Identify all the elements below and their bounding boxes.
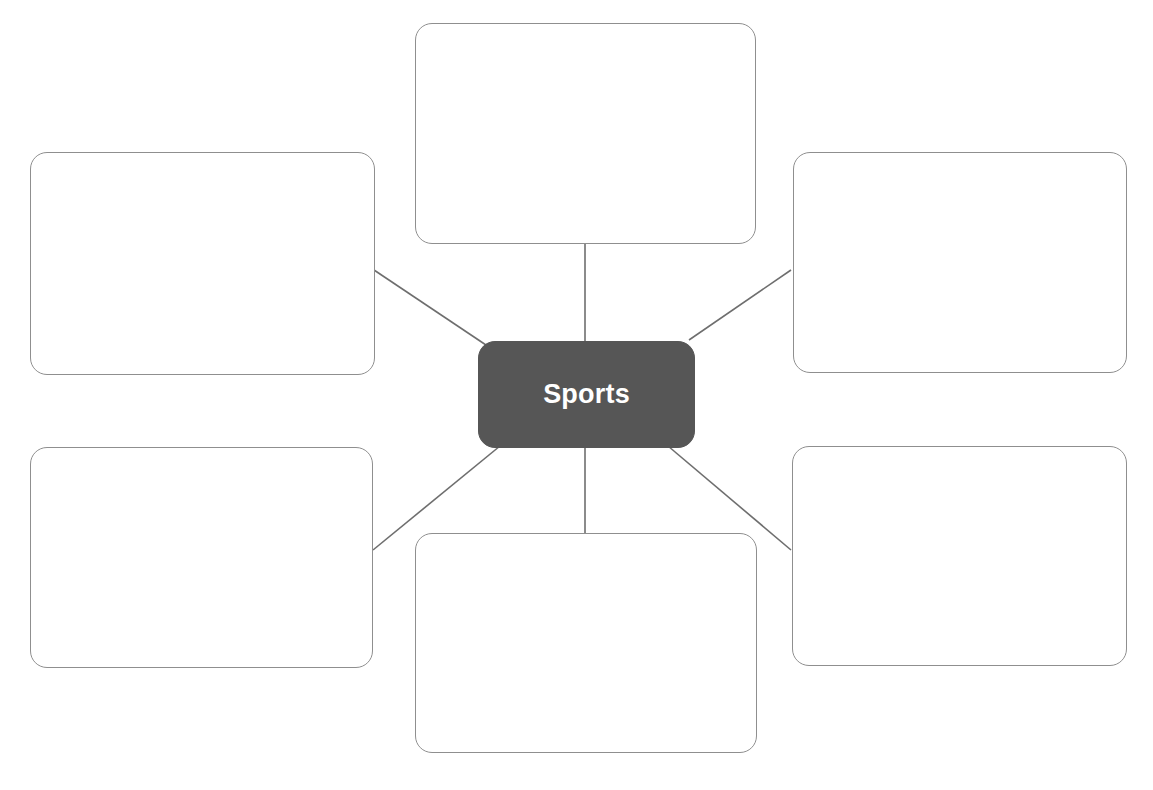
idea-box-bottom[interactable] <box>415 533 757 753</box>
connector-top-right <box>689 270 791 340</box>
idea-box-bottom-left[interactable] <box>30 447 373 668</box>
idea-box-top[interactable] <box>415 23 756 244</box>
idea-box-bottom-right[interactable] <box>792 446 1127 666</box>
idea-box-top-right[interactable] <box>793 152 1127 373</box>
center-topic-node[interactable]: Sports <box>478 341 695 448</box>
idea-box-top-left[interactable] <box>30 152 375 375</box>
center-topic-label: Sports <box>543 381 630 408</box>
concept-map-canvas: Sports <box>0 0 1153 790</box>
connector-top-left <box>374 270 486 345</box>
